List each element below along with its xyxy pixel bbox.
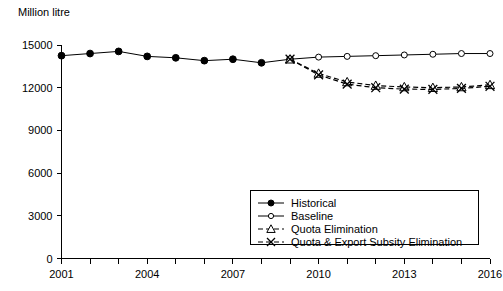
- marker-open-circle: [316, 54, 322, 60]
- marker-filled-circle: [172, 54, 179, 61]
- marker-filled-circle: [268, 200, 274, 206]
- x-tick-label: 2013: [392, 268, 416, 280]
- legend-item-label: Quota Elimination: [291, 223, 378, 235]
- marker-filled-circle: [58, 52, 65, 59]
- x-tick-label: 2004: [135, 268, 159, 280]
- marker-filled-circle: [144, 53, 151, 60]
- y-tick-label: 6000: [28, 167, 52, 179]
- marker-filled-circle: [258, 59, 265, 66]
- x-tick-label: 2001: [49, 268, 73, 280]
- marker-open-triangle: [485, 80, 494, 88]
- marker-open-circle: [344, 53, 350, 59]
- legend-item-label: Quota & Export Subsity Elimination: [291, 236, 462, 248]
- marker-open-circle: [487, 51, 493, 57]
- legend-item-label: Baseline: [291, 210, 333, 222]
- series-2: [287, 51, 493, 63]
- y-tick-label: 15000: [22, 39, 53, 51]
- x-tick-label: 2007: [221, 268, 245, 280]
- chart-container: Million litre 03000600090001200015000 20…: [0, 0, 503, 291]
- x-tick-label: 2010: [306, 268, 330, 280]
- marker-open-circle: [268, 213, 273, 218]
- marker-open-circle: [401, 52, 407, 58]
- legend-item-label: Historical: [291, 197, 336, 209]
- marker-filled-circle: [115, 48, 122, 55]
- series-1: [58, 48, 293, 66]
- marker-open-circle: [373, 53, 379, 59]
- marker-filled-circle: [230, 56, 237, 63]
- marker-open-circle: [458, 51, 464, 57]
- y-tick-label: 3000: [28, 210, 52, 222]
- chart-series-layer: [58, 48, 495, 94]
- y-tick-label: 12000: [22, 82, 53, 94]
- y-axis-tick-labels: 03000600090001200015000: [22, 39, 53, 265]
- marker-open-circle: [430, 51, 436, 57]
- x-axis-tick-labels: 200120042007201020132016: [49, 268, 502, 280]
- x-axis-ticks: [62, 259, 491, 264]
- marker-filled-circle: [87, 50, 94, 57]
- line-chart-plot: 03000600090001200015000 2001200420072010…: [0, 0, 503, 291]
- marker-filled-circle: [201, 57, 208, 64]
- y-tick-label: 0: [46, 253, 52, 265]
- y-axis-ticks: [57, 45, 62, 259]
- x-tick-label: 2016: [478, 268, 502, 280]
- chart-legend: HistoricalBaselineQuota EliminationQuota…: [251, 191, 479, 249]
- y-tick-label: 9000: [28, 124, 52, 136]
